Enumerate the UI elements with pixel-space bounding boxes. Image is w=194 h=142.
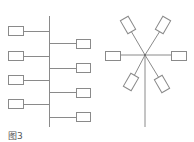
bus-topology-diagram [9,16,91,127]
star-center-hub [144,54,146,56]
bus-node-box [9,27,24,36]
star-node-box-right [172,52,187,61]
bus-node-box [77,113,91,122]
star-node-box-left [106,52,121,61]
bus-node-box [77,89,91,98]
star-spoke-line [145,31,160,55]
star-spoke-line [131,31,145,55]
bus-node-box [9,76,24,85]
figure-caption: 图3 [8,131,23,141]
star-spoke-line [134,55,145,76]
star-node-box-lower-right [154,75,169,92]
bus-node-box [77,40,91,49]
star-topology-diagram [106,16,187,127]
bus-node-box [77,64,91,73]
star-node-box-upper-right [155,16,170,33]
bus-node-box [9,100,24,109]
star-node-box-upper-left [120,16,135,33]
figure-canvas [0,0,194,142]
star-node-box-lower-left [123,73,138,90]
bus-node-box [9,52,24,61]
star-spoke-line [145,55,159,78]
